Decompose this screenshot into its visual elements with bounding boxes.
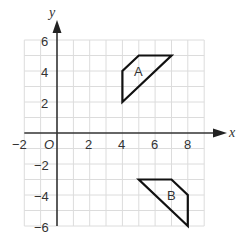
x-tick-label: 4 [118,137,125,152]
y-tick-labels: 6 4 2 −2 −4 −6 [34,34,49,235]
x-tick-label: 2 [85,137,92,152]
x-tick-label: 6 [151,137,158,152]
y-axis-arrow-icon [53,20,62,33]
x-axis-label: x [228,125,236,140]
x-axis [24,129,227,138]
shape-b-label: B [167,188,176,203]
shape-b [139,180,188,227]
y-tick-label: 2 [41,96,48,111]
y-axis-label: y [47,5,56,20]
coordinate-diagram: x y O −2 2 4 6 8 6 4 2 −2 −4 −6 A B [0,0,246,247]
y-tick-label: −4 [34,189,49,204]
x-tick-labels: −2 2 4 6 8 [12,137,191,152]
y-tick-label: 4 [41,65,48,80]
x-tick-label: −2 [12,137,27,152]
y-tick-label: −2 [34,158,49,173]
y-tick-label: 6 [41,34,48,49]
y-tick-label: −6 [34,220,49,235]
x-tick-label: 8 [184,137,191,152]
shape-a-label: A [134,64,143,79]
shape-a [122,56,171,103]
x-axis-arrow-icon [213,129,227,138]
origin-label: O [44,137,54,152]
